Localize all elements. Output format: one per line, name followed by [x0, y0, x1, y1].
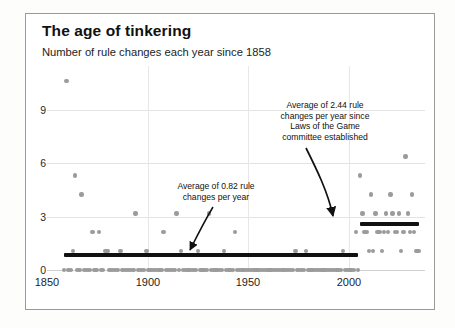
- scatter-dot: [410, 192, 414, 196]
- y-tick-label-0: 0: [24, 264, 46, 276]
- gridline-y-3: [47, 217, 425, 218]
- scatter-dot: [77, 268, 81, 272]
- scatter-dot: [172, 268, 176, 272]
- scatter-dot: [369, 192, 373, 196]
- scatter-dot: [388, 192, 392, 196]
- scatter-dot: [403, 154, 407, 158]
- scatter-dot: [360, 211, 364, 215]
- average-before-1995: [64, 253, 358, 257]
- x-tick-label-1900: 1900: [125, 276, 171, 288]
- scatter-dot: [69, 268, 73, 272]
- annotation-left-average: Average of 0.82 rule changes per year: [158, 181, 274, 202]
- scatter-dot: [371, 249, 375, 253]
- gridline-y-6: [47, 163, 425, 164]
- y-tick-label-9: 9: [24, 104, 46, 116]
- scatter-dot: [133, 211, 137, 215]
- scatter-dot: [395, 230, 399, 234]
- x-tick-label-1950: 1950: [225, 276, 271, 288]
- gridline-x-2000: [349, 66, 350, 271]
- scatter-dot: [354, 230, 358, 234]
- scatter-dot: [399, 249, 403, 253]
- y-tick-label-6: 6: [24, 157, 46, 169]
- scatter-dot: [412, 230, 416, 234]
- scatter-dot: [79, 192, 83, 196]
- x-tick-label-1850: 1850: [24, 276, 70, 288]
- scatter-dot: [416, 249, 420, 253]
- plot-area: [47, 66, 425, 271]
- gridline-x-1900: [148, 66, 149, 271]
- scatter-dot: [384, 211, 388, 215]
- scatter-dot: [131, 268, 135, 272]
- scatter-dot: [406, 211, 410, 215]
- scatter-dot: [364, 230, 368, 234]
- x-tick-label-2000: 2000: [326, 276, 372, 288]
- scatter-dot: [73, 173, 77, 177]
- scatter-dot: [390, 211, 394, 215]
- scatter-dot: [207, 211, 211, 215]
- scatter-dot: [97, 230, 101, 234]
- gridline-x-1950: [248, 66, 249, 271]
- y-tick-label-3: 3: [24, 211, 46, 223]
- scatter-dot: [373, 211, 377, 215]
- scatter-dot: [64, 79, 68, 83]
- scatter-dot: [401, 230, 405, 234]
- scatter-dot: [161, 230, 165, 234]
- scatter-dot: [233, 230, 237, 234]
- average-after-1995: [360, 222, 418, 226]
- chart-subtitle: Number of rule changes each year since 1…: [42, 46, 271, 58]
- scatter-dot: [397, 211, 401, 215]
- chart-canvas: The age of tinkering Number of rule chan…: [0, 0, 455, 328]
- scatter-dot: [380, 249, 384, 253]
- annotation-right-average: Average of 2.44 rule changes per year si…: [266, 100, 384, 142]
- scatter-dot: [159, 268, 163, 272]
- scatter-dot: [386, 230, 390, 234]
- scatter-dot: [90, 230, 94, 234]
- chart-title: The age of tinkering: [42, 22, 191, 40]
- scatter-dot: [174, 211, 178, 215]
- scatter-dot: [358, 173, 362, 177]
